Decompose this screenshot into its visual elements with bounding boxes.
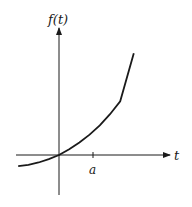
x-tick-label-a: a [89,163,96,177]
x-axis-label: t [174,148,180,163]
function-curve [18,53,134,166]
function-plot: f(t) t a [0,0,192,207]
y-axis-label: f(t) [47,12,68,27]
